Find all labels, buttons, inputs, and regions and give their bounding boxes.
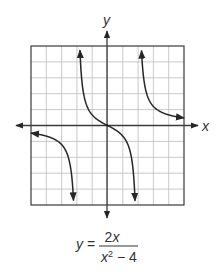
equation: y = 2x x2 − 4	[75, 229, 138, 265]
curve-branch-left	[31, 133, 73, 200]
equation-denominator: x2 − 4	[100, 249, 137, 265]
equation-lhs: y =	[75, 236, 95, 252]
curve-branch-right	[142, 51, 184, 118]
x-axis-label: x	[201, 118, 210, 134]
y-axis-label: y	[102, 12, 111, 28]
equation-numerator: 2x	[105, 229, 121, 245]
function-graph: x y y = 2x x2 − 4	[0, 0, 222, 275]
